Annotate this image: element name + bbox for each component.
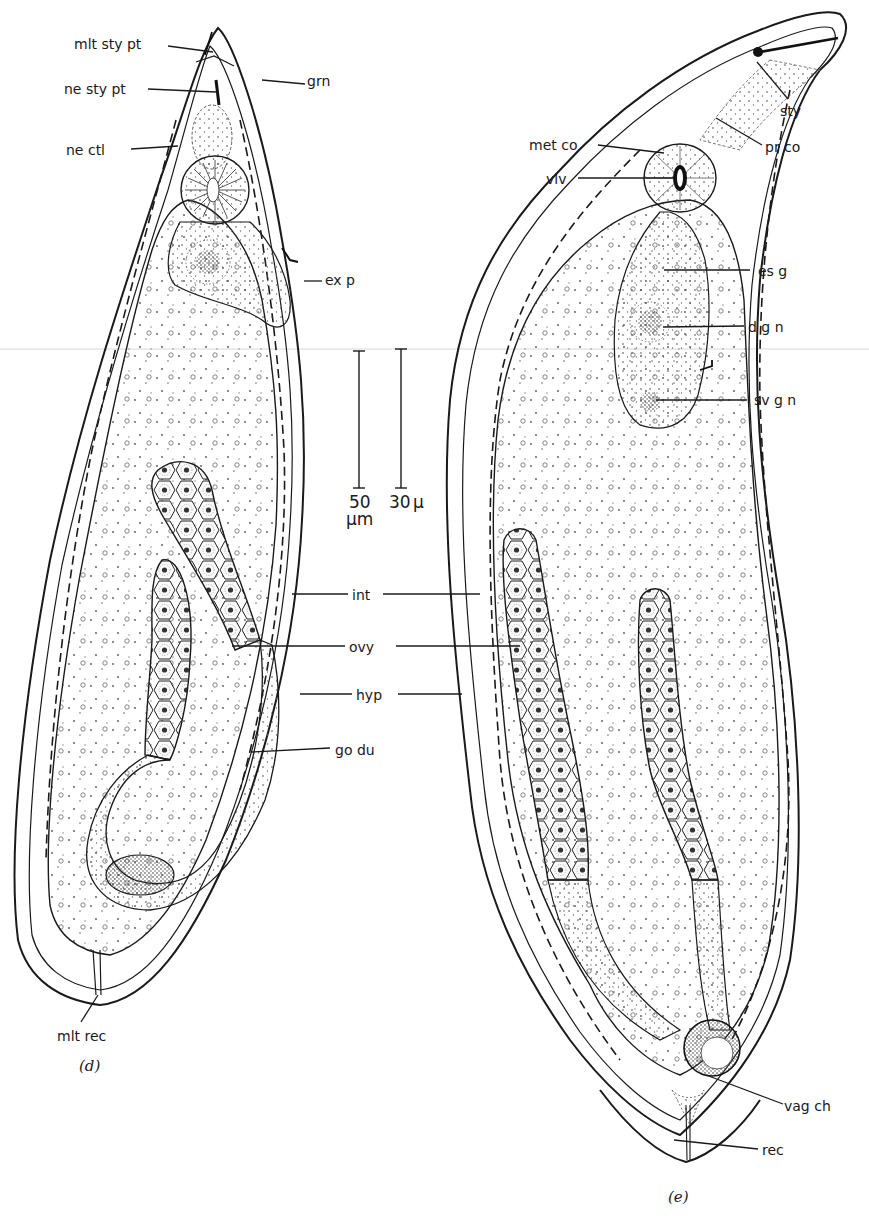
leader-grn <box>262 80 305 84</box>
label-sv-g-n: sv g n <box>754 392 796 408</box>
label-met-co: met co <box>529 137 577 153</box>
scale-bar-30u: 30 µ <box>389 349 424 512</box>
label-es-g: es g <box>758 263 787 279</box>
panel-d-median-bulb <box>181 156 249 224</box>
label-ne-sty-pt: ne sty pt <box>64 81 126 97</box>
panel-e-dorsal-gland-nucleus <box>638 310 662 334</box>
label-hyp: hyp <box>356 687 382 703</box>
panel-e-vaginal-lumen <box>701 1037 733 1069</box>
panel-d-rectum <box>93 950 101 995</box>
scale-bar-50-unit: µm <box>346 509 373 529</box>
figure-canvas: 50 µm 30 µ mlt sty pt ne sty pt grn ne c… <box>0 0 869 1220</box>
label-vag-ch: vag ch <box>784 1098 831 1114</box>
label-mlt-sty-pt: mlt sty pt <box>74 36 142 52</box>
label-ex-p: ex p <box>325 272 355 288</box>
leader-mlt-rec <box>81 995 98 1022</box>
scale-bar-30-value: 30 <box>389 492 411 512</box>
leader-met-co <box>598 145 664 153</box>
label-ovy: ovy <box>349 639 374 655</box>
label-grn: grn <box>307 73 330 89</box>
caption-panel-e: (e) <box>668 1188 689 1206</box>
panel-d-stylet <box>216 80 219 105</box>
label-rec: rec <box>762 1142 784 1158</box>
panel-d-gland-nucleus <box>196 250 220 274</box>
scale-bars: 50 µm 30 µ <box>346 349 424 529</box>
leader-ne-sty-pt <box>148 89 216 92</box>
label-pr-co: pr co <box>765 139 800 155</box>
label-vlv: vlv <box>546 171 566 187</box>
panel-e-stylet-knob <box>753 47 763 57</box>
label-d-g-n: d g n <box>748 319 784 335</box>
scale-bar-30-unit: µ <box>413 492 424 512</box>
label-go-du: go du <box>335 742 375 758</box>
caption-panel-d: (d) <box>79 1057 100 1075</box>
panel-e-specimen <box>447 12 846 1162</box>
panel-e-rectum <box>672 1090 704 1125</box>
scale-bar-50um: 50 µm <box>346 351 373 529</box>
leader-vag-ch <box>706 1075 783 1104</box>
label-mlt-rec: mlt rec <box>57 1028 106 1044</box>
label-int: int <box>352 587 371 603</box>
label-ne-ctl: ne ctl <box>66 142 105 158</box>
panel-e-stylet <box>760 38 838 52</box>
panel-d-spermatheca <box>106 855 174 895</box>
panel-d-specimen <box>15 28 304 1005</box>
panel-e-procorpus <box>700 60 820 150</box>
panel-e-subventral-gland-nucleus <box>640 392 660 412</box>
label-sty: sty <box>780 103 801 119</box>
